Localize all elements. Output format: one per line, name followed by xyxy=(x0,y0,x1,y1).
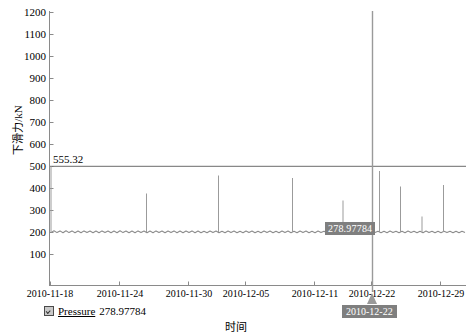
checkbox-checked-icon[interactable] xyxy=(44,306,54,316)
x-axis-tick-labels: 2010-11-18 2010-11-24 2010-11-30 2010-12… xyxy=(0,289,471,303)
triangle-up-icon xyxy=(367,293,377,304)
x-tick-label: 2010-11-24 xyxy=(97,289,143,299)
threshold-value-label: 555.32 xyxy=(52,154,84,165)
x-tick-label: 2010-11-18 xyxy=(27,289,73,299)
legend-series-value: 278.97784 xyxy=(99,305,146,317)
chart-container: 下滑力/kN 1200 1100 1000 900 800 700 600 50… xyxy=(0,0,471,335)
chart-legend[interactable]: Pressure 278.97784 xyxy=(44,305,146,317)
series-spikes xyxy=(147,171,444,232)
x-axis-title: 时间 xyxy=(0,318,471,334)
x-tick-label: 2010-12-29 xyxy=(418,289,465,299)
x-tick-label: 2010-12-11 xyxy=(292,289,338,299)
x-tick-label: 2010-12-05 xyxy=(223,289,270,299)
x-axis-ticks xyxy=(51,282,441,286)
cursor-value-tooltip: 278.97784 xyxy=(325,222,375,235)
series-baseline-path xyxy=(51,231,465,233)
x-tick-label: 2010-11-30 xyxy=(166,289,212,299)
legend-series-link[interactable]: Pressure xyxy=(58,305,95,317)
plot-area[interactable] xyxy=(0,0,471,335)
series-pressure[interactable] xyxy=(51,166,465,233)
cursor-date-badge: 2010-12-22 xyxy=(342,305,397,318)
